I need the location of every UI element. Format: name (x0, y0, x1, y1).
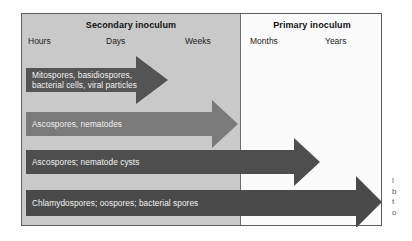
inoculum-timeline-figure: Secondary inoculum Primary inoculum Hour… (0, 0, 412, 241)
caption-fragment-line-1: l (392, 176, 412, 187)
caption-fragment-line-4: o (392, 208, 412, 219)
caption-fragment-line-3: t (392, 197, 412, 208)
arrow-label-4: Chlamydospores; oospores; bacterial spor… (32, 198, 198, 208)
caption-fragment-line-2: b (392, 187, 412, 198)
caption-fragment: l b t o (392, 176, 412, 224)
figure-frame: Secondary inoculum Primary inoculum Hour… (21, 13, 382, 226)
arrow-label-3: Ascospores; nematode cysts (32, 157, 139, 167)
arrow-label-1: Mitospores, basidiospores, bacterial cel… (32, 70, 137, 91)
arrow-label-2: Ascospores, nematodes (32, 119, 122, 129)
